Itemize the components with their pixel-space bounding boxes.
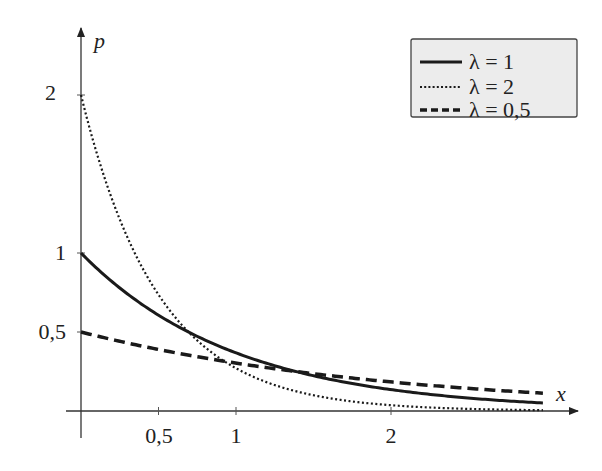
y-tick-label-1: 1	[55, 240, 66, 265]
plot-series	[81, 95, 543, 410]
legend-label: λ = 1	[469, 49, 514, 74]
series-lambda-1	[81, 253, 543, 403]
x-tick-label-0-5: 0,5	[145, 423, 173, 448]
x-axis-label: x	[555, 381, 566, 406]
legend: λ = 1 λ = 2 λ = 0,5	[411, 39, 577, 122]
y-axis-label: p	[92, 28, 105, 53]
y-tick-label-2: 2	[45, 80, 56, 105]
x-tick-label-2: 2	[386, 423, 397, 448]
legend-label: λ = 2	[469, 74, 514, 99]
series-lambda-0-5	[81, 332, 543, 393]
x-tick-label-1: 1	[231, 423, 242, 448]
y-tick-label-0-5: 0,5	[39, 319, 67, 344]
chart-canvas: p x 2 1 0,5 0,5 1 2 λ = 1 λ = 2 λ = 0,5	[0, 0, 602, 471]
series-lambda-2	[81, 95, 543, 410]
legend-label: λ = 0,5	[469, 97, 531, 122]
